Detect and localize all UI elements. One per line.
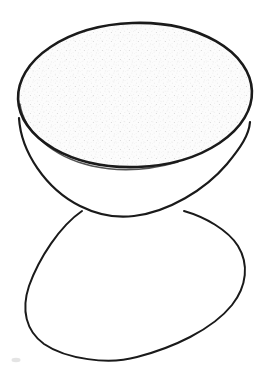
figure-canvas <box>0 0 266 370</box>
scan-speck <box>12 358 21 362</box>
bowl-line-drawing <box>0 0 266 370</box>
lower-reflected-curve <box>25 211 245 361</box>
